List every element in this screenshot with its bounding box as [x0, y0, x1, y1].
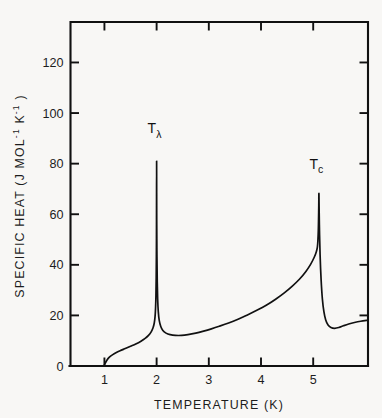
y-tick-label: 20	[49, 309, 63, 323]
x-tick-label: 1	[101, 373, 108, 387]
y-tick-label: 0	[56, 360, 63, 374]
x-tick-label: 4	[257, 373, 264, 387]
x-tick-label: 3	[205, 373, 212, 387]
y-tick-label: 60	[49, 208, 63, 222]
y-tick-label: 80	[49, 157, 63, 171]
specific-heat-chart: 12345 020406080100120 TλTc TEMPERATURE (…	[0, 0, 382, 418]
y-tick-label: 40	[49, 258, 63, 272]
y-tick-label: 120	[42, 56, 63, 70]
y-axis-title: SPECIFIC HEAT (J MOL-1 K-1 )	[11, 94, 27, 297]
x-tick-label: 5	[310, 373, 317, 387]
figure-container: 12345 020406080100120 TλTc TEMPERATURE (…	[0, 0, 382, 418]
x-axis-title: TEMPERATURE (K)	[154, 398, 284, 412]
y-tick-label: 100	[42, 107, 63, 121]
x-tick-label: 2	[153, 373, 160, 387]
